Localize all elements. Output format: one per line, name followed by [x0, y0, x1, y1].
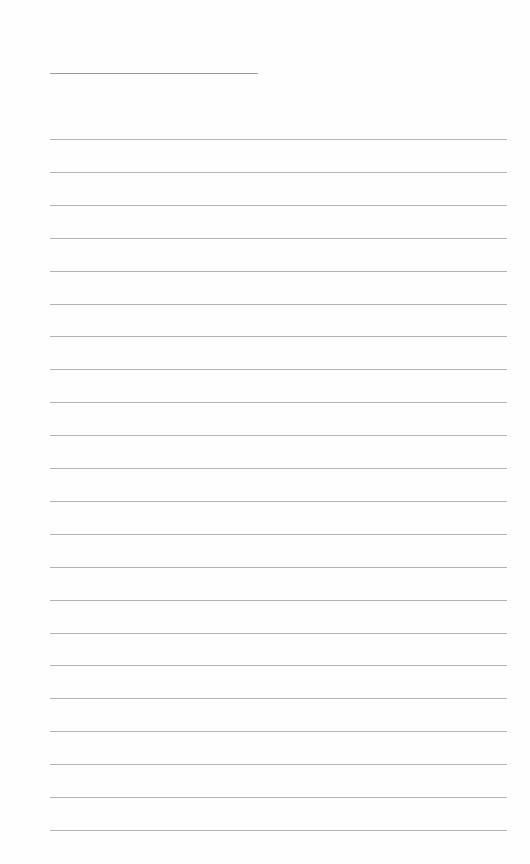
ruled-line — [50, 731, 507, 732]
ruled-line — [50, 600, 507, 601]
ruled-line — [50, 369, 507, 370]
ruled-line — [50, 764, 507, 765]
ruled-line — [50, 172, 507, 173]
ruled-line — [50, 534, 507, 535]
ruled-line — [50, 205, 507, 206]
ruled-line — [50, 830, 507, 831]
ruled-line — [50, 238, 507, 239]
ruled-line — [50, 304, 507, 305]
ruled-line — [50, 271, 507, 272]
header-blank-line — [50, 73, 258, 74]
ruled-line — [50, 665, 507, 666]
ruled-line — [50, 139, 507, 140]
lined-paper-page — [0, 0, 530, 864]
ruled-line — [50, 567, 507, 568]
ruled-line — [50, 633, 507, 634]
ruled-line — [50, 402, 507, 403]
ruled-line — [50, 797, 507, 798]
ruled-line — [50, 698, 507, 699]
ruled-line — [50, 501, 507, 502]
ruled-line — [50, 336, 507, 337]
ruled-line — [50, 435, 507, 436]
ruled-line — [50, 468, 507, 469]
